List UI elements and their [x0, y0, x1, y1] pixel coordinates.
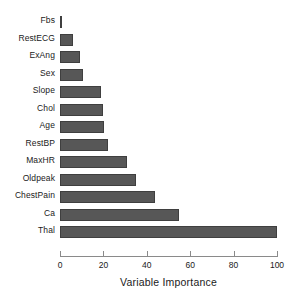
bar-category-label: Thal: [0, 224, 55, 236]
bar-category-label: Oldpeak: [0, 172, 55, 184]
bar-category-label: Slope: [0, 84, 55, 96]
x-axis-tick-label: 80: [214, 260, 254, 271]
bar-category-label: Chol: [0, 102, 55, 114]
bar-category-label: RestBP: [0, 137, 55, 149]
x-axis-tick-label: 0: [40, 260, 80, 271]
bar-row: RestECG: [0, 34, 297, 46]
x-axis-line: [60, 256, 277, 257]
bar-exang: [60, 51, 80, 63]
x-axis-tick: [277, 251, 278, 257]
x-axis-title: Variable Importance: [0, 276, 297, 288]
bar-restecg: [60, 34, 73, 46]
bar-chestpain: [60, 191, 155, 203]
bar-category-label: Age: [0, 119, 55, 131]
bar-row: Fbs: [0, 16, 297, 28]
bar-category-label: RestECG: [0, 32, 55, 44]
bar-row: ExAng: [0, 51, 297, 63]
x-axis-tick-label: 100: [257, 260, 297, 271]
bar-sex: [60, 69, 83, 81]
bar-thal: [60, 226, 277, 238]
x-axis-tick: [190, 251, 191, 257]
x-axis-tick: [234, 251, 235, 257]
bar-chol: [60, 104, 103, 116]
plot-area: Fbs RestECG ExAng Sex Slope Chol Age: [0, 0, 297, 250]
bar-row: Age: [0, 121, 297, 133]
bar-restbp: [60, 139, 108, 151]
bar-age: [60, 121, 104, 133]
bar-row: ChestPain: [0, 191, 297, 203]
bar-category-label: MaxHR: [0, 154, 55, 166]
bar-slope: [60, 86, 101, 98]
bar-row: Sex: [0, 69, 297, 81]
bar-row: Thal: [0, 226, 297, 238]
x-axis-tick: [103, 251, 104, 257]
bar-row: Ca: [0, 209, 297, 221]
bar-row: RestBP: [0, 139, 297, 151]
x-axis-tick-label: 40: [127, 260, 167, 271]
x-axis-tick: [60, 251, 61, 257]
x-axis-tick-label: 60: [170, 260, 210, 271]
bar-oldpeak: [60, 174, 136, 186]
x-axis-title-text: Variable Importance: [120, 276, 217, 288]
bar-category-label: Fbs: [0, 14, 55, 26]
x-axis: 020406080100 Variable Importance: [0, 250, 297, 300]
x-axis-tick: [147, 251, 148, 257]
bar-ca: [60, 209, 179, 221]
bar-row: Slope: [0, 86, 297, 98]
bar-row: MaxHR: [0, 156, 297, 168]
bar-row: Chol: [0, 104, 297, 116]
bar-maxhr: [60, 156, 127, 168]
bar-category-label: ChestPain: [0, 189, 55, 201]
bar-category-label: Ca: [0, 207, 55, 219]
bar-row: Oldpeak: [0, 174, 297, 186]
bar-category-label: Sex: [0, 67, 55, 79]
bar-category-label: ExAng: [0, 49, 55, 61]
bar-fbs: [60, 16, 62, 28]
x-axis-tick-label: 20: [83, 260, 123, 271]
variable-importance-chart: Fbs RestECG ExAng Sex Slope Chol Age: [0, 0, 297, 300]
